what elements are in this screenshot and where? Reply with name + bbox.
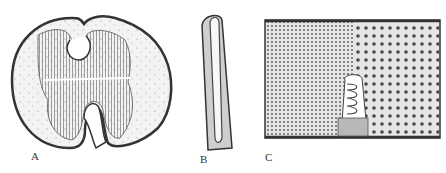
panel-a: A (0, 0, 180, 173)
panel-c-drawing (250, 0, 446, 173)
panel-c: C (250, 0, 446, 173)
panel-a-drawing (0, 0, 180, 173)
panel-a-label: A (31, 150, 39, 162)
panel-b: B (180, 0, 260, 173)
panel-b-label: B (200, 153, 207, 165)
panel-c-label: C (265, 151, 272, 163)
panel-b-drawing (180, 0, 260, 173)
